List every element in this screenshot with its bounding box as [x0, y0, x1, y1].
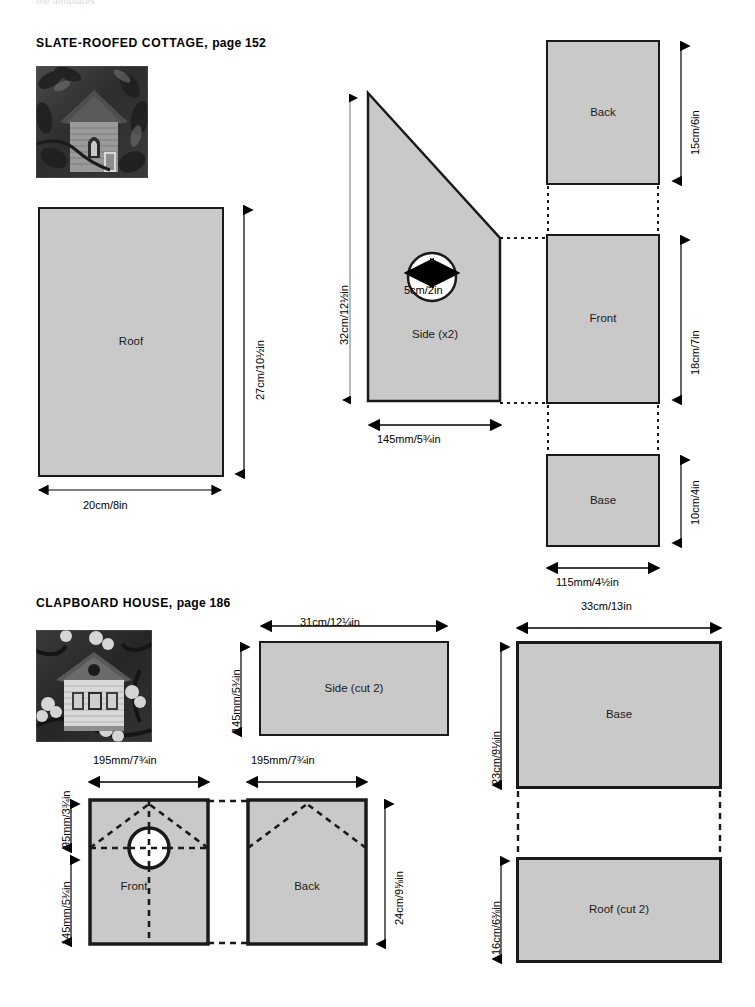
assembly-guides-clapboard-br: [0, 0, 755, 1007]
